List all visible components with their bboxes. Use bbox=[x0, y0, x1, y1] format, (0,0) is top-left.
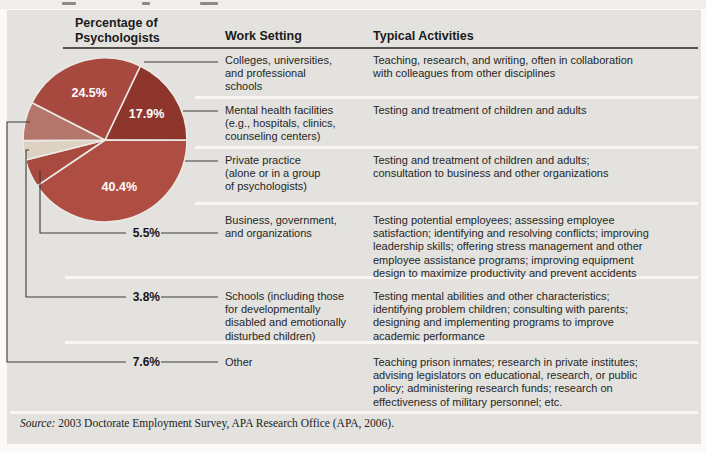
setting-cell-schools: Schools (including those for development… bbox=[225, 290, 375, 343]
setting-cell-mental-health: Mental health facilities (e.g., hospital… bbox=[225, 104, 375, 144]
setting-cell-private-practice: Private practice (alone or in a group of… bbox=[225, 154, 375, 194]
activities-cell-colleges: Teaching, research, and writing, often i… bbox=[373, 54, 703, 80]
setting-cell-other: Other bbox=[225, 356, 375, 369]
setting-cell-colleges: Colleges, universities, and professional… bbox=[225, 54, 375, 94]
pie-slices bbox=[23, 58, 187, 222]
percent-label-business: 5.5% bbox=[114, 226, 160, 240]
percent-label-schools: 3.8% bbox=[114, 290, 160, 304]
activities-cell-business: Testing potential employees; assessing e… bbox=[373, 214, 703, 280]
setting-cell-business: Business, government, and organizations bbox=[225, 214, 375, 240]
activities-cell-schools: Testing mental abilities and other chara… bbox=[373, 290, 703, 343]
activities-cell-mental-health: Testing and treatment of children and ad… bbox=[373, 104, 703, 117]
source-note: Source: 2003 Doctorate Employment Survey… bbox=[20, 417, 394, 429]
activities-cell-other: Teaching prison inmates; research in pri… bbox=[373, 356, 703, 409]
source-text: 2003 Doctorate Employment Survey, APA Re… bbox=[55, 417, 394, 429]
figure-page: Percentage of Psychologists Work Setting… bbox=[0, 0, 706, 452]
activities-cell-private-practice: Testing and treatment of children and ad… bbox=[373, 154, 703, 180]
percent-label-other: 7.6% bbox=[114, 355, 160, 369]
source-label: Source: bbox=[20, 417, 55, 429]
pie-slice-label: 17.9% bbox=[129, 107, 164, 121]
pie-slice-label: 40.4% bbox=[102, 180, 137, 194]
pie-slice-label: 24.5% bbox=[71, 86, 106, 100]
